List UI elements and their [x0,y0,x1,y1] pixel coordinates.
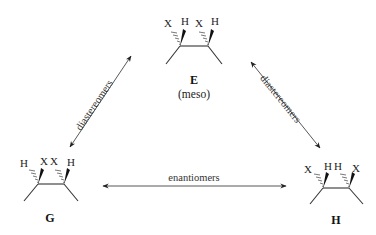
bond [310,188,323,204]
wedge-bond-icon [180,29,186,46]
relationship-label: diastereomers [73,78,115,132]
molecule-e: X H X H E (meso) [164,15,222,101]
bond [208,46,222,64]
atom-label: H [324,160,332,172]
atom-label: H [20,157,28,169]
hashed-bond-icon [29,170,39,183]
atom-label: X [164,17,172,29]
atom-label: X [40,155,48,167]
relationship-label: enantiomers [168,172,219,183]
molecule-sublabel: (meso) [178,88,210,101]
bond [166,46,180,64]
hashed-bond-icon [55,170,65,183]
bond [349,188,363,204]
hashed-bond-icon [340,174,350,187]
molecule-g: H X X H G [20,155,78,225]
atom-label: X [50,155,58,167]
atom-label: H [211,15,219,27]
atom-label: H [181,15,189,27]
wedge-bond-icon [208,29,214,46]
molecule-label: G [45,211,54,225]
wedge-bond-icon [64,168,70,184]
stereoisomer-diagram: X H X H E (meso) H X [0,0,376,235]
wedge-bond-icon [323,172,329,188]
relationship-e-h: diastereomers [251,62,320,148]
molecule-label: H [331,213,341,227]
wedge-bond-icon [38,168,44,184]
hashed-bond-icon [171,32,181,45]
molecule-label: E [190,73,198,87]
bond [64,184,78,201]
hashed-bond-icon [314,174,324,187]
relationship-label: diastereomers [258,73,303,125]
wedge-bond-icon [349,172,355,188]
hashed-bond-icon [199,32,209,45]
molecule-h: X H H X H [304,160,363,227]
atom-label: H [334,160,342,172]
atom-label: H [67,156,75,168]
relationship-g-h: enantiomers [103,172,286,186]
atom-label: X [304,163,312,175]
atom-label: X [195,17,203,29]
atom-label: X [352,162,360,174]
bond [24,184,38,201]
relationship-g-e: diastereomers [70,56,131,147]
